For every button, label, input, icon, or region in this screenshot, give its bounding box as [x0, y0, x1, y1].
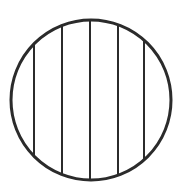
circle-diagram: [0, 0, 179, 183]
vertical-chords: [34, 20, 144, 180]
